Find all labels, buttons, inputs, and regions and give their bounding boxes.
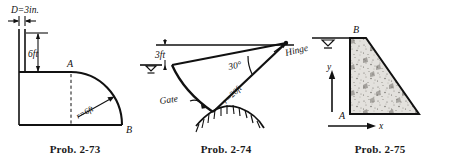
diameter-label: D=3in.	[10, 5, 39, 15]
depth-label: 3ft	[154, 50, 165, 60]
figure-sheet: D=3in. 6ft r=6ft A B Prob. 2-73	[0, 0, 454, 159]
height-label: 6ft	[28, 49, 38, 59]
pipe-walls	[19, 29, 25, 125]
figure-2-73-drawing: D=3in. 6ft r=6ft A B	[0, 0, 150, 140]
caption-prob-2-75: Prob. 2-75	[306, 143, 454, 155]
y-axis-label: y	[326, 62, 332, 72]
point-a-label: A	[66, 58, 74, 69]
figure-2-74-drawing: 3ft 30° r=20ft Hinge	[140, 0, 312, 140]
ground-symbol	[196, 105, 264, 132]
figure-2-75-drawing: y x B A	[306, 0, 454, 140]
figure-prob-2-75: y x B A Prob. 2-75	[306, 0, 454, 159]
point-a-label: A	[338, 110, 346, 121]
caption-prob-2-73: Prob. 2-73	[0, 143, 150, 155]
water-level-symbol	[146, 66, 156, 73]
point-b-label: B	[353, 24, 359, 35]
figure-prob-2-73: D=3in. 6ft r=6ft A B Prob. 2-73	[0, 0, 150, 159]
x-axis-label: x	[378, 121, 384, 131]
gate-arc	[172, 65, 213, 112]
y-axis	[329, 70, 335, 112]
water-level-symbol	[322, 40, 334, 48]
point-b-label: B	[126, 124, 132, 135]
gate-label: Gate	[159, 94, 179, 106]
angle-label: 30°	[226, 59, 242, 72]
caption-prob-2-74: Prob. 2-74	[140, 143, 312, 155]
diameter-dimension	[8, 16, 36, 26]
radius-label: r=6ft	[74, 103, 95, 121]
x-axis	[328, 123, 376, 129]
figure-prob-2-74: 3ft 30° r=20ft Hinge	[140, 0, 312, 159]
dam-aggregate-texture	[350, 38, 419, 114]
angle-arc	[248, 56, 252, 74]
